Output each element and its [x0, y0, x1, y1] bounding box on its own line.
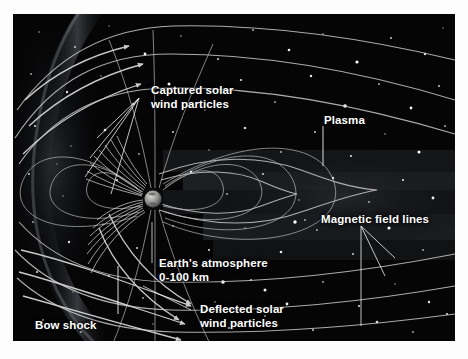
space-scene [13, 14, 455, 341]
earth [142, 188, 164, 210]
label-plasma: Plasma [324, 114, 365, 128]
label-earths-atmosphere: Earth's atmosphere 0-100 km [159, 257, 268, 284]
label-magnetic-field-lines: Magnetic field lines [321, 213, 429, 227]
label-deflected-solar-wind-particles: Deflected solar wind particles [200, 303, 284, 330]
label-bow-shock: Bow shock [35, 319, 97, 333]
magnetosphere-diagram: Captured solar wind particles Plasma Mag… [13, 14, 455, 341]
label-captured-solar-wind-particles: Captured solar wind particles [151, 84, 234, 111]
figure-page: Captured solar wind particles Plasma Mag… [0, 0, 468, 359]
